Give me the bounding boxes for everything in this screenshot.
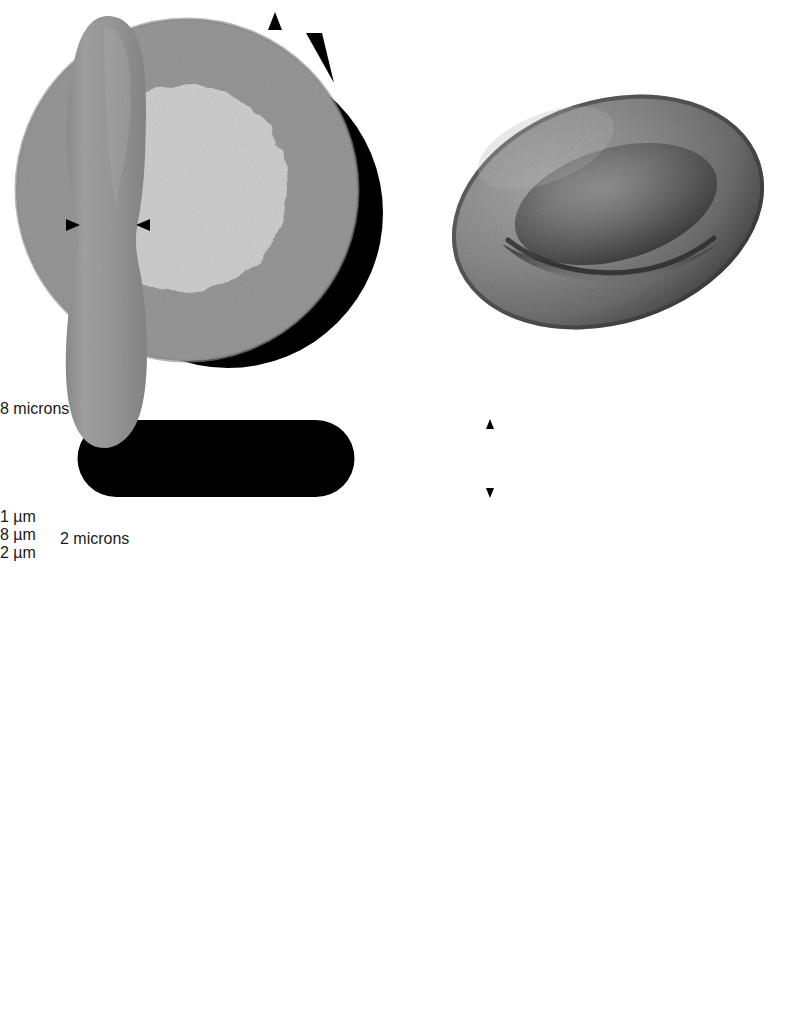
erythrocyte-3d-body [421,56,791,368]
label-8-um: 8 µm [0,526,351,544]
blood-cell-figure: 8 microns [0,0,791,1028]
label-2-um: 2 µm [0,544,351,562]
panel-three-d-render [438,52,778,382]
label-1-um: 1 µm [0,508,351,526]
erythrocyte-side-profile-shape [66,16,147,448]
panel-grayscale-side-profile: 1 µm 8 µm 2 µm [0,0,351,562]
dimension-line-8-um [268,12,282,454]
dimension-line-2-microns [486,419,494,498]
dimension-line-2-um [78,457,218,471]
